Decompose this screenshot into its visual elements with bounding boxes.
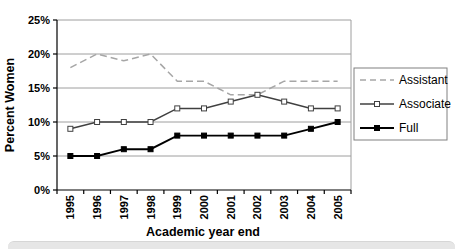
x-tick-label-1998: 1998 bbox=[145, 195, 157, 219]
series-assistant-line bbox=[70, 54, 337, 95]
x-tick-label-2001: 2001 bbox=[225, 195, 237, 219]
legend-associate-marker bbox=[375, 102, 380, 107]
y-tick-label-10%: 10% bbox=[28, 116, 50, 128]
y-tick-label-5%: 5% bbox=[34, 150, 50, 162]
series-full-marker-2003 bbox=[282, 133, 287, 138]
x-tick-label-1995: 1995 bbox=[64, 195, 76, 219]
series-associate-marker-2003 bbox=[282, 99, 287, 104]
plot-area: 1995199619971998199920002001200220032004… bbox=[28, 14, 451, 219]
legend-label-assistant: Assistant bbox=[399, 73, 448, 87]
series-full-marker-2004 bbox=[308, 126, 313, 131]
series-associate-marker-1995 bbox=[68, 126, 73, 131]
series-full-line bbox=[70, 122, 337, 156]
x-tick-label-1999: 1999 bbox=[171, 195, 183, 219]
x-tick-label-2000: 2000 bbox=[198, 195, 210, 219]
y-tick-label-0%: 0% bbox=[34, 184, 50, 196]
x-tick-label-2002: 2002 bbox=[251, 195, 263, 219]
y-axis-title: Percent Women bbox=[3, 58, 17, 152]
series-full-marker-1998 bbox=[148, 147, 153, 152]
series-full-marker-2000 bbox=[202, 133, 207, 138]
y-tick-label-20%: 20% bbox=[28, 48, 50, 60]
legend-label-full: Full bbox=[399, 121, 418, 135]
x-axis-title: Academic year end bbox=[146, 225, 260, 239]
series-associate-marker-2004 bbox=[308, 106, 313, 111]
series-associate-marker-2002 bbox=[255, 92, 260, 97]
series-associate-marker-1998 bbox=[148, 120, 153, 125]
series-full-marker-2002 bbox=[255, 133, 260, 138]
x-tick-label-2005: 2005 bbox=[332, 195, 344, 219]
series-full-marker-1996 bbox=[95, 154, 100, 159]
series-associate-marker-2005 bbox=[335, 106, 340, 111]
percent-women-line-chart: 1995199619971998199920002001200220032004… bbox=[0, 0, 455, 240]
series-associate-marker-1996 bbox=[95, 120, 100, 125]
series-full-marker-2001 bbox=[228, 133, 233, 138]
x-tick-label-1997: 1997 bbox=[118, 195, 130, 219]
series-full-marker-1995 bbox=[68, 154, 73, 159]
legend-label-associate: Associate bbox=[399, 97, 451, 111]
series-associate-marker-2001 bbox=[228, 99, 233, 104]
series-full-marker-1999 bbox=[175, 133, 180, 138]
y-tick-label-15%: 15% bbox=[28, 82, 50, 94]
x-tick-label-2003: 2003 bbox=[278, 195, 290, 219]
series-associate-line bbox=[70, 95, 337, 129]
bottom-edge-strip bbox=[8, 241, 455, 249]
y-tick-label-25%: 25% bbox=[28, 14, 50, 26]
legend-full-marker bbox=[375, 126, 380, 131]
series-associate-marker-1999 bbox=[175, 106, 180, 111]
series-full-marker-1997 bbox=[121, 147, 126, 152]
series-associate-marker-2000 bbox=[202, 106, 207, 111]
series-full-marker-2005 bbox=[335, 120, 340, 125]
x-tick-label-1996: 1996 bbox=[91, 195, 103, 219]
series-associate-marker-1997 bbox=[121, 120, 126, 125]
x-tick-label-2004: 2004 bbox=[305, 194, 317, 219]
